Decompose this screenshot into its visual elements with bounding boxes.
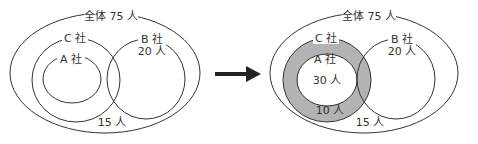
venn-diagram-figure: 全体 75 人 C 社 A 社 B 社 20 人 15 人 全体 75 人 C …: [0, 0, 478, 144]
b-label: B 社: [141, 32, 163, 46]
c-label: C 社: [315, 31, 337, 45]
a-label: A 社: [314, 52, 336, 66]
universe-ellipse: [10, 13, 200, 133]
left-diagram: 全体 75 人 C 社 A 社 B 社 20 人 15 人: [10, 9, 200, 133]
c-label: C 社: [64, 31, 86, 45]
universe-label: 全体 75 人: [342, 9, 396, 23]
a-label: A 社: [60, 52, 82, 66]
c-only-count: 10 人: [316, 104, 345, 117]
outside-count: 15 人: [356, 116, 385, 129]
right-diagram: 全体 75 人 C 社 A 社 30 人 10 人 B 社 20 人 15 人: [270, 9, 458, 133]
universe-label: 全体 75 人: [84, 9, 138, 23]
b-label: B 社: [391, 32, 413, 46]
outside-count: 15 人: [98, 116, 127, 129]
b-count: 20 人: [388, 45, 417, 58]
b-count: 20 人: [138, 45, 167, 58]
a-count: 30 人: [313, 74, 342, 87]
right-arrow-icon: [215, 66, 261, 82]
